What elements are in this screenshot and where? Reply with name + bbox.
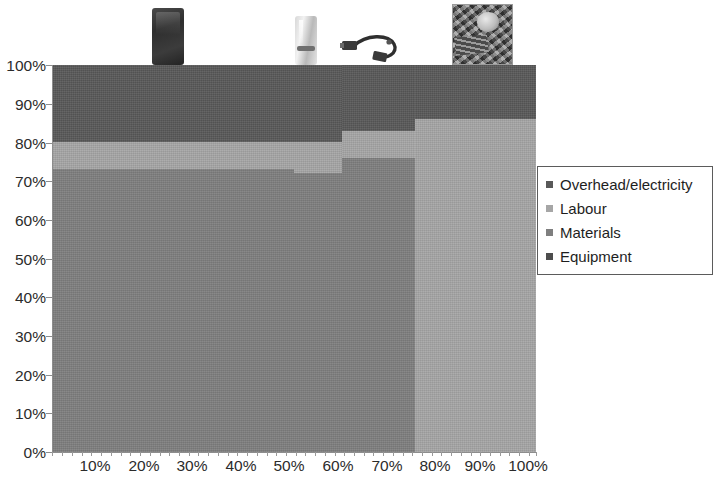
y-axis-label-90: 90% bbox=[2, 97, 46, 113]
y-tick-100 bbox=[46, 65, 52, 66]
y-axis-label-40: 40% bbox=[2, 290, 46, 306]
plot-area bbox=[52, 65, 536, 452]
y-axis-label-60: 60% bbox=[2, 213, 46, 229]
x-axis-line bbox=[52, 452, 537, 453]
x-axis-label-40: 40% bbox=[216, 457, 266, 475]
legend-label-overhead: Overhead/electricity bbox=[560, 177, 693, 192]
x-axis-label-30: 30% bbox=[167, 457, 217, 475]
y-axis-label-70: 70% bbox=[2, 174, 46, 190]
y-axis-label-0: 0% bbox=[2, 445, 46, 461]
bar-4-segment-labour bbox=[415, 119, 536, 452]
bar-3 bbox=[342, 65, 415, 452]
silver-device-image bbox=[295, 16, 317, 65]
bar-3-segment-overhead bbox=[342, 65, 415, 131]
stacked-bar-chart: 100% 90% 80% 70% 60% 50% 40% 30% 20% 10%… bbox=[0, 0, 716, 483]
y-tick-60 bbox=[46, 220, 52, 221]
y-axis-line bbox=[52, 65, 53, 452]
x-axis-label-10: 10% bbox=[70, 457, 120, 475]
chart-legend: Overhead/electricity Labour Materials Eq… bbox=[537, 166, 713, 275]
legend-label-equipment: Equipment bbox=[560, 249, 632, 264]
y-axis-label-50: 50% bbox=[2, 252, 46, 268]
bar-1 bbox=[52, 65, 294, 452]
legend-item-overhead-electricity[interactable]: Overhead/electricity bbox=[546, 174, 706, 194]
cable-image bbox=[340, 26, 402, 65]
dark-handset-image bbox=[152, 8, 184, 65]
y-tick-40 bbox=[46, 297, 52, 298]
x-axis-label-50: 50% bbox=[264, 457, 314, 475]
bar-2 bbox=[294, 65, 342, 452]
y-axis-label-80: 80% bbox=[2, 136, 46, 152]
legend-item-labour[interactable]: Labour bbox=[546, 198, 706, 218]
x-axis-label-20: 20% bbox=[119, 457, 169, 475]
y-axis-label-10: 10% bbox=[2, 406, 46, 422]
bar-4 bbox=[415, 65, 536, 452]
legend-swatch-icon-overhead bbox=[546, 181, 553, 188]
legend-label-materials: Materials bbox=[560, 225, 621, 240]
legend-item-materials[interactable]: Materials bbox=[546, 222, 706, 242]
x-axis-label-90: 90% bbox=[455, 457, 505, 475]
y-tick-10 bbox=[46, 413, 52, 414]
y-tick-70 bbox=[46, 181, 52, 182]
bar-2-segment-materials bbox=[294, 173, 342, 452]
bar-1-segment-materials bbox=[52, 169, 294, 452]
y-tick-20 bbox=[46, 375, 52, 376]
x-axis-label-70: 70% bbox=[362, 457, 412, 475]
y-axis-labels: 100% 90% 80% 70% 60% 50% 40% 30% 20% 10%… bbox=[0, 0, 46, 483]
y-tick-80 bbox=[46, 143, 52, 144]
bar-2-segment-overhead bbox=[294, 65, 342, 142]
bar-2-segment-labour bbox=[294, 142, 342, 173]
y-axis-label-20: 20% bbox=[2, 368, 46, 384]
bar-1-segment-labour bbox=[52, 142, 294, 169]
legend-label-labour: Labour bbox=[560, 201, 607, 216]
x-axis-label-100: 100% bbox=[500, 457, 556, 475]
legend-swatch-icon-equipment bbox=[546, 253, 553, 260]
circuit-scrap-image bbox=[452, 4, 513, 65]
bar-1-segment-overhead bbox=[52, 65, 294, 142]
y-tick-50 bbox=[46, 259, 52, 260]
y-tick-90 bbox=[46, 104, 52, 105]
x-axis-label-80: 80% bbox=[410, 457, 460, 475]
legend-swatch-icon-labour bbox=[546, 205, 553, 212]
x-axis-label-60: 60% bbox=[313, 457, 363, 475]
bar-3-segment-labour bbox=[342, 131, 415, 158]
legend-swatch-icon-materials bbox=[546, 229, 553, 236]
y-axis-label-30: 30% bbox=[2, 329, 46, 345]
y-tick-30 bbox=[46, 336, 52, 337]
bar-3-segment-materials bbox=[342, 158, 415, 452]
legend-item-equipment[interactable]: Equipment bbox=[546, 246, 706, 266]
bar-4-segment-overhead bbox=[415, 65, 536, 119]
y-axis-label-100: 100% bbox=[2, 58, 46, 74]
